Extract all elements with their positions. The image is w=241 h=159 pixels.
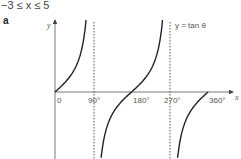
function-label: y = tan θ bbox=[175, 21, 206, 30]
x-tick-270: 270° bbox=[164, 96, 181, 105]
y-axis-label: y bbox=[46, 21, 51, 30]
x-tick-0: 0 bbox=[57, 96, 62, 105]
x-tick-360: 360° bbox=[209, 96, 226, 105]
tan-branch-2 bbox=[101, 20, 162, 158]
x-tick-90: 90° bbox=[88, 96, 100, 105]
tan-graph: y x 0 90° 180° 270° 360° y = tan θ bbox=[0, 0, 241, 159]
x-tick-180: 180° bbox=[133, 96, 150, 105]
x-axis-label: x bbox=[234, 93, 239, 102]
tan-branch-1 bbox=[55, 20, 86, 92]
tan-branch-3 bbox=[178, 92, 208, 158]
